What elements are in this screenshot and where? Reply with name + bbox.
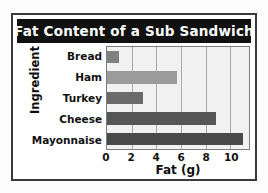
category-axis-labels: BreadHamTurkeyCheeseMayonnaise xyxy=(41,46,105,150)
bar-row xyxy=(107,129,249,149)
bar xyxy=(107,112,216,124)
x-axis-title: Fat (g) xyxy=(106,163,250,177)
bars-layer xyxy=(107,47,249,149)
figure-root: Fat Content of a Sub Sandwich Ingredient… xyxy=(0,0,268,193)
x-tick-label: 4 xyxy=(152,151,159,163)
x-tick-label: 0 xyxy=(102,151,109,163)
bar-row xyxy=(107,108,249,128)
category-label: Cheese xyxy=(41,108,105,129)
bar xyxy=(107,51,119,63)
x-tick-label: 2 xyxy=(127,151,134,163)
bar xyxy=(107,71,177,83)
title-banner: Fat Content of a Sub Sandwich xyxy=(17,19,251,43)
x-tick-label: 6 xyxy=(177,151,184,163)
category-label: Mayonnaise xyxy=(41,129,105,150)
bar xyxy=(107,133,243,145)
category-label: Ham xyxy=(41,67,105,88)
x-tick-label: 8 xyxy=(203,151,210,163)
bar-row xyxy=(107,67,249,87)
category-label: Turkey xyxy=(41,88,105,109)
y-axis-title: Ingredient xyxy=(28,35,42,125)
x-tick-label: 10 xyxy=(224,151,239,163)
bar-row xyxy=(107,88,249,108)
chart-card: Fat Content of a Sub Sandwich Ingredient… xyxy=(11,13,257,181)
category-label: Bread xyxy=(41,46,105,67)
bar-row xyxy=(107,47,249,67)
chart-title: Fat Content of a Sub Sandwich xyxy=(14,23,254,39)
plot-area xyxy=(106,46,250,150)
bar xyxy=(107,92,143,104)
